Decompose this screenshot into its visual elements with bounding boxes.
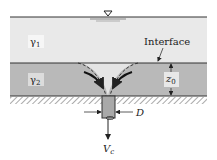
ground-hatch-left [10,97,102,104]
interface-label: Interface [144,36,190,47]
stratified-drain-diagram: D Vc γ1 γ2 Interface z0 [0,0,217,160]
ground-hatch-right [115,97,207,104]
outflow-velocity-label: Vc [103,143,114,156]
drain-pipe [102,96,115,120]
diameter-label: D [135,107,144,118]
